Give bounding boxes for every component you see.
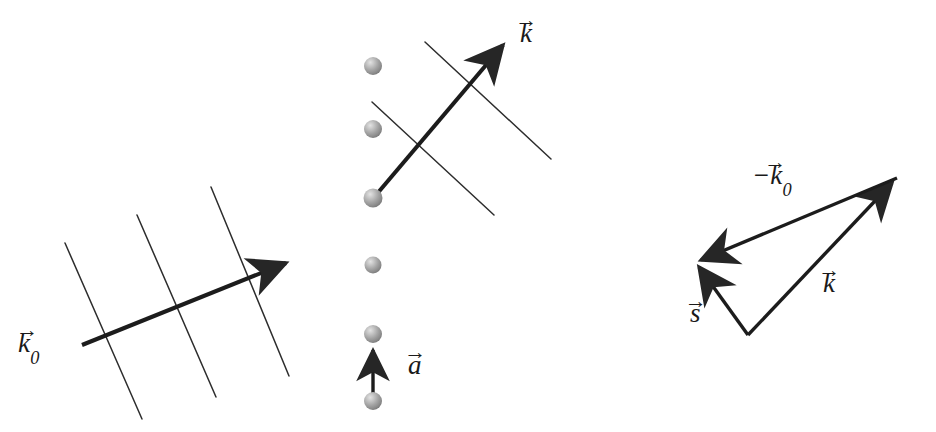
label-minus-k0-triangle: → −k0 bbox=[752, 162, 791, 194]
atom-sphere bbox=[364, 120, 382, 138]
panel-middle-atom-row bbox=[364, 42, 552, 410]
triangle-minus-k0-vector-arrow bbox=[701, 178, 897, 260]
atom-sphere-scattering-center bbox=[364, 189, 383, 208]
lattice-plane-traces bbox=[65, 187, 289, 419]
lattice-plane-line-3 bbox=[211, 187, 289, 376]
wavefront-line-2 bbox=[372, 102, 494, 215]
label-k-triangle: → k bbox=[823, 270, 835, 297]
incident-wavevector-k0-arrow bbox=[82, 263, 286, 345]
vector-arrow-accent-icon: → bbox=[818, 259, 840, 281]
scattered-wavevector-k-arrow bbox=[376, 45, 503, 195]
atom-sphere bbox=[364, 325, 382, 343]
atom-sphere bbox=[364, 57, 382, 75]
label-s-scattering-vector: → s bbox=[690, 300, 701, 327]
label-a-lattice-constant: → a bbox=[408, 352, 422, 379]
panel-right-vector-triangle bbox=[699, 178, 897, 335]
lattice-plane-line-1 bbox=[65, 243, 142, 419]
atom-sphere bbox=[365, 257, 382, 274]
atom-sphere bbox=[364, 392, 382, 410]
vector-arrow-accent-icon: → bbox=[684, 290, 706, 312]
panel-left-incident-beam bbox=[65, 187, 289, 419]
figure-canvas bbox=[0, 0, 936, 432]
label-k0-subscript: 0 bbox=[30, 348, 39, 368]
diffraction-figure: → k0 → k → a → −k0 → k → s bbox=[0, 0, 936, 432]
vector-arrow-accent-icon: → bbox=[404, 341, 426, 363]
label-k-scattered: → k bbox=[520, 20, 532, 47]
vector-arrow-accent-icon: → bbox=[515, 9, 537, 31]
wavefront-traces bbox=[372, 42, 551, 215]
label-minus-k0-subscript: 0 bbox=[782, 180, 791, 200]
label-k0-incident: → k0 bbox=[18, 330, 39, 362]
vector-arrow-accent-icon: → bbox=[764, 151, 786, 173]
vector-arrow-accent-icon: → bbox=[16, 319, 38, 341]
triangle-s-vector-arrow bbox=[699, 267, 748, 335]
